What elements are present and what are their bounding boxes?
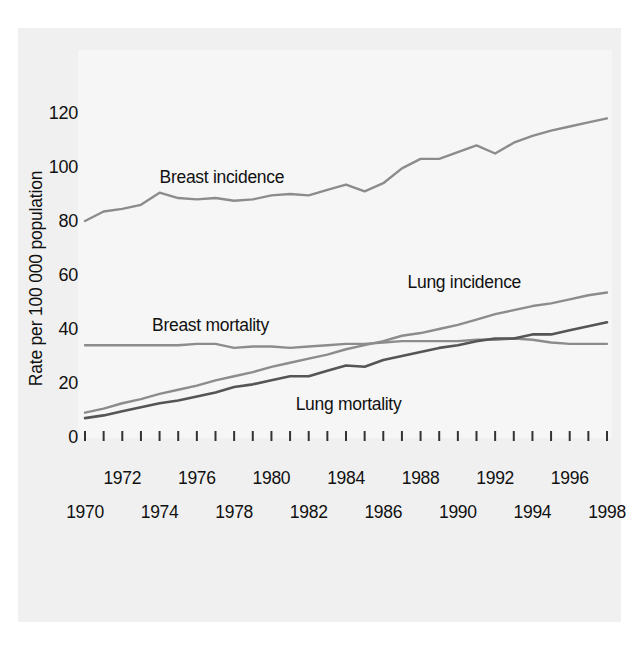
series-label-lung-incidence: Lung incidence xyxy=(408,274,522,292)
series-label-lung-mortality: Lung mortality xyxy=(296,396,402,414)
figure-container: Rate per 100 000 population 020406080100… xyxy=(0,0,639,663)
series-label-breast-incidence: Breast incidence xyxy=(160,169,285,187)
series-label-breast-mortality: Breast mortality xyxy=(152,317,269,335)
series-annotations: Breast incidenceBreast mortalityLung inc… xyxy=(0,0,639,663)
